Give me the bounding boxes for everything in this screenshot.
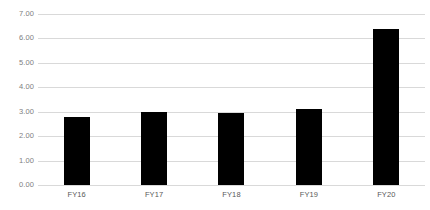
y-axis-tick-3.00: 3.00 <box>0 108 34 116</box>
gridline-0.00 <box>38 185 425 186</box>
y-axis-tick-6.00: 6.00 <box>0 34 34 42</box>
bar-fy19[interactable] <box>296 109 322 185</box>
plot-area <box>38 14 425 185</box>
bar-slot-fy18 <box>193 14 270 185</box>
y-axis-tick-0.00: 0.00 <box>0 181 34 189</box>
x-axis-tick-fy18: FY18 <box>193 191 270 199</box>
x-axis-tick-fy20: FY20 <box>348 191 425 199</box>
x-axis-tick-fy16: FY16 <box>38 191 115 199</box>
bar-slot-fy19 <box>270 14 347 185</box>
x-axis-tick-fy19: FY19 <box>270 191 347 199</box>
bars-layer <box>38 14 425 185</box>
y-axis-tick-1.00: 1.00 <box>0 157 34 165</box>
bar-fy18[interactable] <box>218 113 244 185</box>
bar-fy20[interactable] <box>373 29 399 185</box>
bar-fy16[interactable] <box>64 117 90 185</box>
bar-slot-fy17 <box>115 14 192 185</box>
y-axis-tick-7.00: 7.00 <box>0 10 34 18</box>
bar-slot-fy20 <box>348 14 425 185</box>
bar-fy17[interactable] <box>141 112 167 185</box>
y-axis-tick-5.00: 5.00 <box>0 59 34 67</box>
y-axis-tick-4.00: 4.00 <box>0 83 34 91</box>
bar-slot-fy16 <box>38 14 115 185</box>
bar-chart: 0.001.002.003.004.005.006.007.00 FY16FY1… <box>0 0 430 210</box>
y-axis-tick-2.00: 2.00 <box>0 132 34 140</box>
x-axis-tick-fy17: FY17 <box>115 191 192 199</box>
